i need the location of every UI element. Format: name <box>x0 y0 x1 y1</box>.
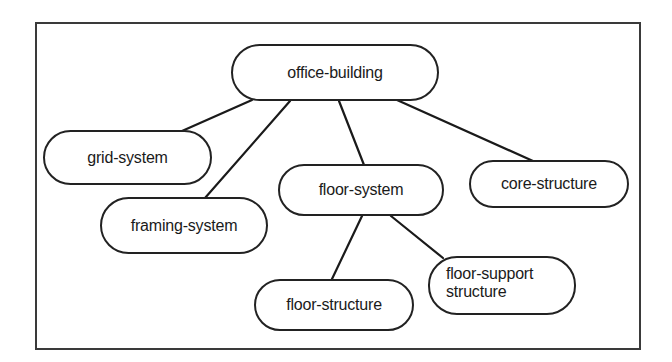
node-label: grid-system <box>87 149 167 167</box>
edge-office-grid <box>182 100 252 131</box>
node-label: framing-system <box>131 217 238 235</box>
node-floor-structure: floor-structure <box>254 279 414 331</box>
node-office-building: office-building <box>231 44 439 101</box>
edge-office-floor <box>339 101 364 165</box>
edge-floor-floorstructure <box>332 216 362 279</box>
node-grid-system: grid-system <box>43 130 212 185</box>
node-framing-system: framing-system <box>100 197 268 254</box>
node-label: floor-structure <box>286 296 382 314</box>
node-label-line2: structure <box>446 283 533 301</box>
node-label-line1: floor-support <box>446 265 533 283</box>
edge-office-core <box>397 100 533 161</box>
edge-floor-floorsupport <box>391 216 443 258</box>
node-label: floor-system <box>319 181 404 199</box>
node-floor-support-structure: floor-support structure <box>428 256 576 315</box>
node-core-structure: core-structure <box>469 160 629 208</box>
node-label: office-building <box>287 64 382 82</box>
node-floor-system: floor-system <box>278 164 444 216</box>
node-label: core-structure <box>501 175 597 193</box>
